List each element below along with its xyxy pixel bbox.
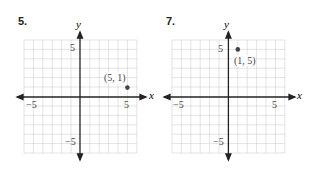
graph-problem-7: 7. y x 5 −5 −5 5 (1, 5) — [155, 0, 311, 170]
tick-pos-y: 5 — [70, 42, 75, 53]
data-point — [125, 85, 130, 90]
tick-neg-x: −5 — [26, 99, 37, 110]
axes — [17, 32, 146, 160]
graph-problem-5: 5. y x 5 −5 −5 5 (5, 1) — [0, 0, 160, 170]
tick-neg-y: −5 — [213, 136, 224, 147]
tick-neg-x: −5 — [173, 99, 184, 110]
y-axis-label: y — [224, 18, 229, 30]
point-label: (5, 1) — [104, 72, 126, 83]
x-axis-label: x — [297, 89, 302, 101]
data-point — [236, 47, 241, 52]
point-label: (1, 5) — [234, 55, 256, 66]
tick-neg-y: −5 — [65, 136, 76, 147]
tick-pos-x: 5 — [272, 99, 277, 110]
x-axis-label: x — [149, 89, 154, 101]
coordinate-plane — [155, 0, 311, 170]
y-axis-label: y — [76, 18, 81, 30]
tick-pos-y: 5 — [218, 43, 223, 54]
tick-pos-x: 5 — [124, 99, 129, 110]
